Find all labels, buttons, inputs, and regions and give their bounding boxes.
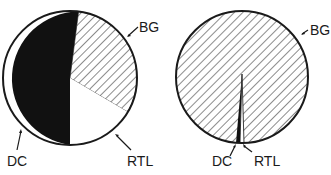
left-label-bg: BG <box>127 19 159 37</box>
left-label-rtl: RTL <box>115 134 153 169</box>
right-label-dc: DC <box>212 144 236 169</box>
right-dc-text: DC <box>212 153 232 169</box>
right-pie-chart <box>176 11 308 143</box>
left-label-dc: DC <box>7 129 27 169</box>
right-label-rtl: RTL <box>243 144 280 169</box>
left-bg-text: BG <box>139 19 159 35</box>
right-bg-text: BG <box>310 22 330 38</box>
right-rtl-text: RTL <box>254 153 280 169</box>
left-dc-text: DC <box>7 153 27 169</box>
pie-charts: BG DC RTL BG DC RTL <box>0 0 331 175</box>
left-pie-chart <box>3 11 137 145</box>
left-rtl-text: RTL <box>127 153 153 169</box>
right-label-bg: BG <box>301 22 330 38</box>
